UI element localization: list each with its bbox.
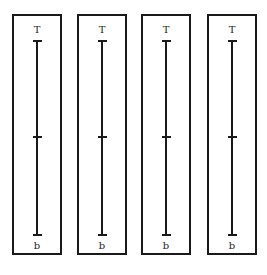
- slider-panel-1: T b: [12, 14, 62, 255]
- top-label: T: [14, 25, 60, 35]
- bottom-tick: [98, 234, 107, 236]
- middle-tick: [228, 136, 237, 138]
- slider-panel-2: T b: [77, 14, 127, 255]
- top-tick: [98, 40, 107, 42]
- bottom-label: b: [143, 241, 189, 251]
- middle-tick: [33, 136, 42, 138]
- top-tick: [162, 40, 171, 42]
- top-tick: [33, 40, 42, 42]
- top-tick: [228, 40, 237, 42]
- bottom-tick: [162, 234, 171, 236]
- slider-track[interactable]: [36, 41, 38, 236]
- slider-panel-3: T b: [141, 14, 191, 255]
- slider-track[interactable]: [231, 41, 233, 236]
- slider-track[interactable]: [101, 41, 103, 236]
- bottom-tick: [228, 234, 237, 236]
- slider-track[interactable]: [165, 41, 167, 236]
- top-label: T: [209, 25, 255, 35]
- top-label: T: [143, 25, 189, 35]
- bottom-label: b: [79, 241, 125, 251]
- bottom-label: b: [14, 241, 60, 251]
- top-label: T: [79, 25, 125, 35]
- bottom-label: b: [209, 241, 255, 251]
- middle-tick: [98, 136, 107, 138]
- slider-panel-4: T b: [207, 14, 257, 255]
- bottom-tick: [33, 234, 42, 236]
- middle-tick: [162, 136, 171, 138]
